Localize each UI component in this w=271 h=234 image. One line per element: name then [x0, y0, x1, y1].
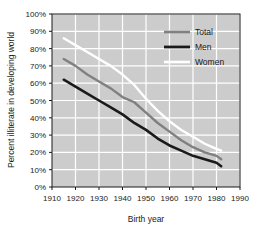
x-tick-label: 1990 [231, 194, 249, 203]
y-tick-label: 40% [30, 114, 46, 123]
y-tick-label: 60% [30, 79, 46, 88]
x-axis-title: Birth year [128, 214, 165, 224]
x-tick-label: 1970 [184, 194, 202, 203]
y-tick-label: 10% [30, 166, 46, 175]
y-tick-label: 20% [30, 148, 46, 157]
y-tick-label: 90% [30, 27, 46, 36]
x-tick-label: 1920 [67, 194, 85, 203]
y-tick-label: 50% [30, 97, 46, 106]
y-axis-title: Percent illiterate in developing world [6, 32, 16, 168]
chart-container: 0%10%20%30%40%50%60%70%80%90%100% 191019… [0, 0, 271, 234]
y-tick-label: 30% [30, 131, 46, 140]
y-tick-label: 0% [34, 183, 46, 192]
x-tick-label: 1980 [208, 194, 226, 203]
x-tick-label: 1910 [43, 194, 61, 203]
x-tick-label: 1930 [90, 194, 108, 203]
legend-label-men: Men [195, 42, 212, 52]
x-tick-label: 1960 [161, 194, 179, 203]
legend-label-total: Total [195, 27, 213, 37]
y-tick-label: 70% [30, 62, 46, 71]
x-tick-label: 1950 [137, 194, 155, 203]
x-tick-label: 1940 [114, 194, 132, 203]
y-tick-label: 80% [30, 45, 46, 54]
line-chart: 0%10%20%30%40%50%60%70%80%90%100% 191019… [0, 0, 271, 234]
legend-label-women: Women [195, 57, 224, 67]
y-tick-label: 100% [26, 10, 46, 19]
